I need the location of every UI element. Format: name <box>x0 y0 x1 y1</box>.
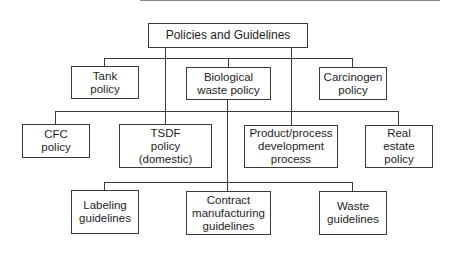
connector <box>291 111 292 125</box>
connector <box>55 111 56 124</box>
connector <box>227 99 228 182</box>
connector <box>291 47 292 111</box>
node-product-process-development: Product/process development process <box>244 125 338 168</box>
node-biological-waste-policy: Biological waste policy <box>186 67 271 100</box>
connector <box>165 111 166 124</box>
connector <box>104 182 353 183</box>
connector <box>228 58 229 67</box>
top-border-line <box>140 0 440 1</box>
node-policies-and-guidelines: Policies and Guidelines <box>148 23 308 48</box>
node-contract-manufacturing-guidelines: Contract manufacturing guidelines <box>186 191 271 235</box>
connector <box>104 182 105 190</box>
node-real-estate-policy: Real estate policy <box>365 125 433 168</box>
connector <box>104 58 105 66</box>
connector <box>227 182 228 191</box>
node-labeling-guidelines: Labeling guidelines <box>71 190 139 234</box>
node-cfc-policy: CFC policy <box>22 124 90 158</box>
node-tank-policy: Tank policy <box>71 66 139 99</box>
node-carcinogen-policy: Carcinogen policy <box>319 67 387 100</box>
connector <box>352 182 353 191</box>
connector <box>352 58 353 67</box>
node-tsdf-policy: TSDF policy (domestic) <box>119 124 212 168</box>
node-waste-guidelines: Waste guidelines <box>319 191 387 235</box>
connector <box>165 47 166 111</box>
connector <box>398 111 399 125</box>
